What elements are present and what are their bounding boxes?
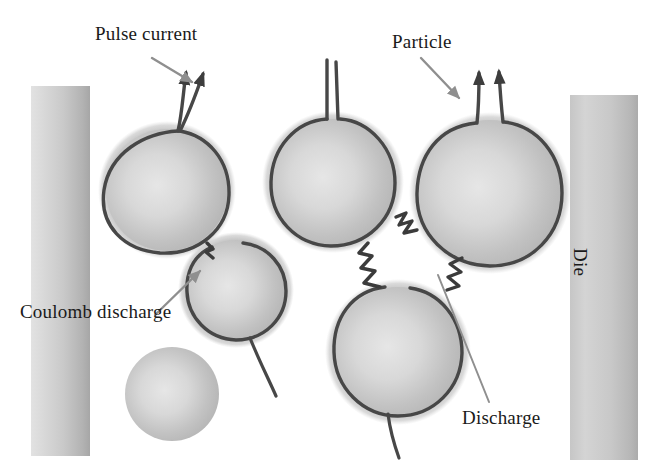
particles [106, 119, 563, 441]
particle-arrow [421, 58, 459, 98]
right-die [570, 95, 638, 460]
label-discharge: Discharge [462, 408, 540, 427]
pulse-current-arrow [152, 58, 192, 82]
spark-center-lower [359, 243, 380, 287]
diagram-canvas [0, 0, 669, 474]
label-die: Die [571, 248, 590, 276]
left-die [31, 86, 90, 456]
figure-container: Pulse current Particle Coulomb discharge… [0, 0, 669, 474]
label-coulomb-discharge: Coulomb discharge [20, 302, 171, 321]
lead-upper-center-b [336, 62, 338, 119]
lead-upper-right-a [477, 73, 479, 123]
label-pulse-current: Pulse current [95, 24, 197, 43]
particle-isolated [125, 347, 219, 441]
label-particle: Particle [392, 32, 452, 51]
tail-middle-small [250, 338, 276, 396]
